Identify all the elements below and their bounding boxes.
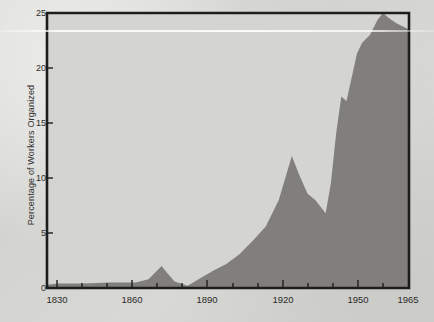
chart-figure: Percentage of Workers Organized 25 20 15…	[0, 0, 434, 322]
x-tick-label-1860: 1860	[110, 294, 154, 305]
y-tick-label-0: 0	[24, 283, 46, 293]
y-tick-label-25: 25	[24, 8, 46, 18]
y-tick-label-5: 5	[24, 228, 46, 238]
y-axis-tick-labels: 25 20 15 10 5 0	[20, 0, 46, 322]
x-tick-label-1950: 1950	[336, 294, 380, 305]
x-tick-label-1830: 1830	[35, 294, 79, 305]
x-tick-label-1920: 1920	[261, 294, 305, 305]
y-tick-label-10: 10	[24, 173, 46, 183]
x-tick-label-1965: 1965	[386, 294, 430, 305]
y-tick-label-20: 20	[24, 63, 46, 73]
x-tick-label-1890: 1890	[185, 294, 229, 305]
plot-area	[0, 0, 434, 322]
y-tick-label-15: 15	[24, 118, 46, 128]
